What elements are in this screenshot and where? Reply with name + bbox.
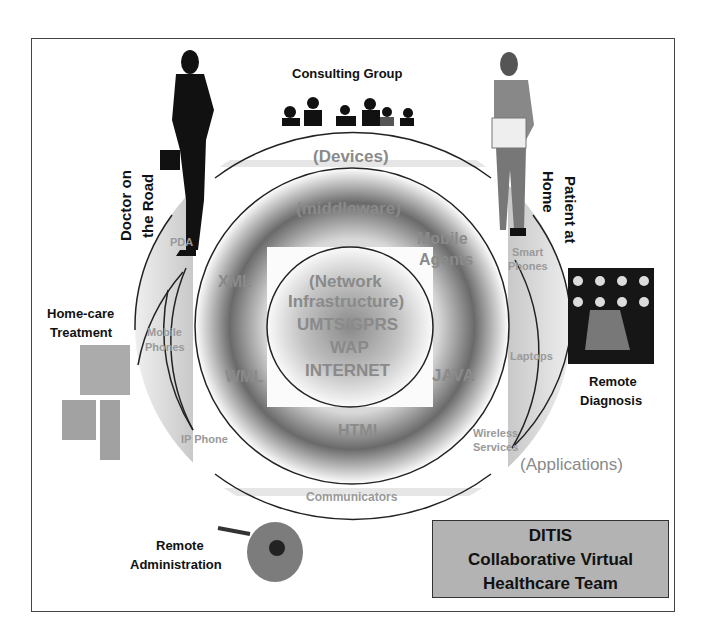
remote-admin-line1: Remote	[156, 539, 204, 554]
consulting-group-icon	[282, 97, 414, 126]
remote-diagnosis-line2: Diagnosis	[580, 394, 642, 409]
consulting-group-label: Consulting Group	[292, 67, 402, 82]
doctor-label-line2: the Road	[139, 148, 156, 263]
network-label-line1: (Network	[309, 272, 382, 292]
wireless-services-line2: Services	[473, 441, 518, 454]
wap-label: WAP	[330, 338, 369, 358]
applications-label: (Applications)	[520, 455, 623, 475]
xml-label: XML	[218, 273, 252, 291]
middleware-layer-label: (middleware)	[296, 199, 401, 219]
patient-label-line1: Patient at	[562, 152, 579, 267]
communicators-label: Communicators	[306, 491, 397, 505]
patient-label-line2: Home	[540, 152, 557, 232]
html-label: HTML	[338, 422, 382, 440]
mobile-phones-line2: Phones	[145, 341, 185, 354]
ip-phone-label: IP Phone	[181, 433, 228, 446]
network-label-line2: Infrastructure)	[288, 292, 404, 312]
homecare-image-icon	[62, 345, 130, 460]
remote-admin-image-icon	[218, 522, 303, 582]
internet-label: INTERNET	[305, 361, 390, 381]
wml-label: WML	[225, 368, 263, 386]
laptops-label: Laptops	[510, 350, 553, 363]
mobile-agents-line2: Agents	[419, 251, 473, 269]
smart-phones-line1: Smart	[512, 246, 543, 259]
umts-gprs-label: UMTS/GPRS	[297, 315, 398, 335]
pda-label: PDA	[170, 236, 193, 249]
remote-diagnosis-image-icon	[568, 268, 654, 364]
doctor-label-line1: Doctor on	[117, 148, 134, 263]
homecare-label-line1: Home-care	[47, 307, 114, 322]
mobile-phones-line1: Mobile	[147, 326, 182, 339]
devices-layer-label: (Devices)	[313, 147, 389, 167]
ditis-subtitle-line2: Healthcare Team	[433, 572, 668, 596]
java-label: JAVA	[432, 366, 475, 386]
smart-phones-line2: Phones	[508, 260, 548, 273]
wireless-services-line1: Wireless	[473, 427, 518, 440]
ditis-subtitle-line1: Collaborative Virtual	[433, 548, 668, 572]
remote-admin-line2: Administration	[130, 558, 222, 573]
homecare-label-line2: Treatment	[50, 326, 112, 341]
ditis-title: DITIS	[433, 524, 668, 548]
remote-diagnosis-line1: Remote	[589, 375, 637, 390]
mobile-agents-line1: Mobile	[417, 230, 468, 248]
ditis-title-box: DITIS Collaborative Virtual Healthcare T…	[432, 520, 669, 598]
